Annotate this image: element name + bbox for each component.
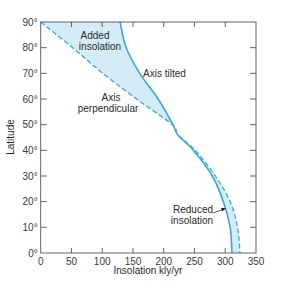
plot-border [41,22,256,253]
added-insolation-label: Added [81,30,110,41]
y-tick-label: 40° [23,145,38,156]
y-tick-label: 60° [23,94,38,105]
x-tick-label: 0 [38,256,44,267]
y-axis-ticks: 0°10°20°30°40°50°60°70°80°90° [23,17,256,259]
plot-frame [41,22,256,253]
y-tick-label: 70° [23,68,38,79]
x-tick-label: 100 [94,256,111,267]
x-axis-title: Insolation kly/yr [114,265,184,276]
y-tick-label: 30° [23,171,38,182]
axis-tilted-label: Axis tilted [143,68,186,79]
x-tick-label: 350 [248,256,265,267]
y-tick-label: 50° [23,119,38,130]
y-tick-label: 90° [23,17,38,28]
reduced-insolation-label-2: insolation [171,215,213,226]
insolation-latitude-chart: 050100150200250300350 0°10°20°30°40°50°6… [0,0,282,290]
x-tick-label: 50 [66,256,78,267]
reduced-insolation-label: Reduced [173,204,213,215]
y-tick-label: 0° [28,248,38,259]
x-tick-label: 300 [217,256,234,267]
axis-perpendicular-label-2: perpendicular [78,103,139,114]
y-tick-label: 80° [23,42,38,53]
axis-perpendicular-label: Axis [102,92,121,103]
y-tick-label: 10° [23,222,38,233]
y-tick-label: 20° [23,196,38,207]
added-insolation-label-2: insolation [79,41,121,52]
x-tick-label: 250 [186,256,203,267]
y-axis-title: Latitude [5,119,16,155]
